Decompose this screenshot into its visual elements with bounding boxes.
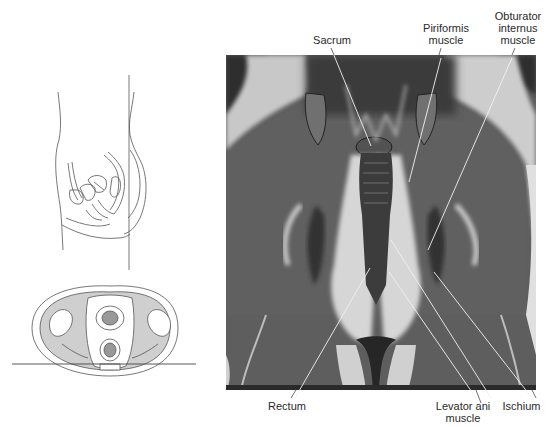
label-sacrum: Sacrum — [307, 34, 357, 46]
label-ischium: Ischium — [497, 400, 546, 412]
leader-levator-2 — [391, 240, 491, 398]
leader-sacrum — [331, 48, 371, 146]
leader-obturator — [428, 58, 512, 250]
leader-lines — [0, 0, 546, 427]
label-piriformis-muscle: Piriformis muscle — [418, 22, 474, 46]
leader-rectum — [295, 268, 370, 398]
leader-ischium — [434, 272, 532, 398]
label-obturator-internus-muscle: Obturator internus muscle — [490, 10, 546, 46]
leader-levator-1 — [389, 272, 476, 398]
anatomy-figure: Sacrum Piriformis muscle Obturator inter… — [0, 0, 546, 427]
label-levator-ani-muscle: Levator ani muscle — [425, 400, 501, 424]
label-rectum: Rectum — [262, 400, 312, 412]
leader-piriformis — [409, 58, 441, 182]
